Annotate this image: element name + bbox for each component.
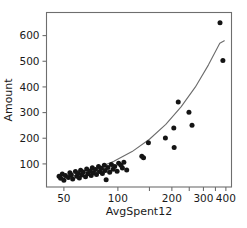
scatter-point: [69, 172, 74, 177]
scatter-point: [172, 145, 177, 150]
scatter-point: [70, 177, 75, 182]
x-axis-title: AvgSpent12: [106, 205, 172, 218]
scatter-point: [146, 140, 151, 145]
y-tick-label: 300: [19, 106, 39, 118]
x-tick-label: 200: [162, 192, 182, 204]
y-tick-label: 600: [19, 29, 39, 41]
y-axis-title: Amount: [2, 78, 15, 122]
x-tick-label: 50: [57, 192, 70, 204]
x-tick-label: 300: [193, 192, 213, 204]
scatter-point: [120, 166, 125, 171]
x-axis-ticks: [64, 187, 226, 191]
y-tick-label: 500: [19, 55, 39, 67]
y-tick-label: 200: [19, 132, 39, 144]
scatter-plot-figure: 50100200300400 100200300400500600 AvgSpe…: [0, 0, 247, 228]
x-axis-tick-labels: 50100200300400: [57, 192, 236, 204]
scatter-point: [218, 20, 223, 25]
x-tick-label: 400: [216, 192, 236, 204]
scatter-point: [176, 100, 181, 105]
scatter-point: [141, 155, 146, 160]
x-tick-label: 100: [108, 192, 128, 204]
y-tick-label: 400: [19, 81, 39, 93]
plot-frame: [47, 13, 232, 188]
y-axis-tick-labels: 100200300400500600: [19, 29, 39, 169]
scatter-point: [220, 58, 225, 63]
chart-svg: 50100200300400 100200300400500600 AvgSpe…: [0, 0, 247, 228]
scatter-point: [115, 169, 120, 174]
scatter-point: [104, 177, 109, 182]
scatter-point: [163, 135, 168, 140]
y-tick-label: 100: [19, 158, 39, 170]
scatter-point: [121, 160, 126, 165]
scatter-point: [61, 178, 66, 183]
scatter-point: [186, 110, 191, 115]
y-axis-ticks: [43, 36, 47, 164]
scatter-point: [112, 164, 117, 169]
scatter-points-group: [57, 20, 226, 183]
scatter-point: [124, 168, 129, 173]
scatter-point: [190, 123, 195, 128]
scatter-point: [171, 125, 176, 130]
